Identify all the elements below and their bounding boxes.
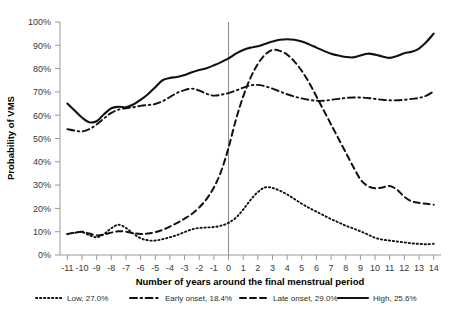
y-tick-label: 80% [33, 64, 51, 74]
x-tick-label: -9 [93, 263, 101, 273]
y-tick-label: 100% [28, 17, 51, 27]
y-tick-label: 10% [33, 227, 51, 237]
y-axis-title-label: Probability of VMS [5, 96, 16, 180]
x-tick-label: -7 [122, 263, 130, 273]
x-tick-label: 6 [314, 263, 319, 273]
x-tick-label: 5 [299, 263, 304, 273]
y-tick-label: 60% [33, 111, 51, 121]
y-axis-title: Probability of VMS [5, 96, 16, 180]
x-tick-label: -3 [181, 263, 189, 273]
x-tick-label: 8 [343, 263, 348, 273]
x-tick-label: -2 [195, 263, 203, 273]
x-tick-label: 13 [414, 263, 424, 273]
x-tick-label: 7 [329, 263, 334, 273]
x-tick-label: 1 [241, 263, 246, 273]
x-tick-label: 12 [399, 263, 409, 273]
legend-item-label: High, 25.6% [373, 294, 417, 303]
vms-probability-line-chart: Probability of VMS 0%10%20%30%40%50%60%7… [0, 0, 456, 315]
x-tick-label: 2 [255, 263, 260, 273]
y-tick-label: 50% [33, 134, 51, 144]
y-tick-label: 30% [33, 180, 51, 190]
legend-item-label: Low, 27.0% [67, 294, 108, 303]
y-tick-label: 20% [33, 204, 51, 214]
y-tick-label: 40% [33, 157, 51, 167]
x-tick-label: -6 [137, 263, 145, 273]
legend-item-label: Late onset, 29.0% [273, 294, 338, 303]
x-tick-label: -5 [151, 263, 159, 273]
x-tick-label: -10 [75, 263, 88, 273]
y-tick-label: 0% [38, 250, 51, 260]
x-tick-label: 4 [285, 263, 290, 273]
x-tick-label: -8 [107, 263, 115, 273]
x-tick-label: 3 [270, 263, 275, 273]
x-tick-label: 10 [370, 263, 380, 273]
x-tick-label: -11 [61, 263, 73, 273]
chart-figure: Probability of VMS 0%10%20%30%40%50%60%7… [0, 0, 456, 315]
x-tick-label: -1 [210, 263, 218, 273]
y-tick-label: 70% [33, 87, 51, 97]
x-tick-label: -4 [166, 263, 174, 273]
legend-item-label: Early onset, 18.4% [165, 294, 232, 303]
x-axis-title-label: Number of years around the final menstru… [136, 276, 365, 287]
x-axis-title: Number of years around the final menstru… [136, 276, 365, 287]
x-tick-label: 11 [385, 263, 394, 273]
x-tick-label: 14 [429, 263, 439, 273]
x-tick-label: 0 [226, 263, 231, 273]
x-tick-label: 9 [358, 263, 363, 273]
y-tick-label: 90% [33, 41, 51, 51]
